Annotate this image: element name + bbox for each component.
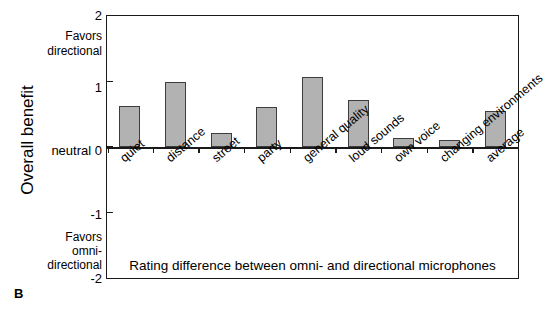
x-tick-mark	[198, 147, 199, 153]
y-annotation-favors-bottom-line2: omni-	[30, 245, 102, 258]
x-tick-mark	[108, 147, 109, 153]
y-annotation-favors-top-line2: directional	[30, 45, 102, 58]
x-tick-mark	[335, 147, 336, 153]
y-tick-mark	[107, 146, 113, 148]
x-axis-caption: Rating difference between omni- and dire…	[107, 258, 518, 273]
x-tick-mark	[381, 147, 382, 153]
y-axis-tick-column: 2 Favors directional 1 neutral 0 -1 Favo…	[30, 0, 102, 318]
x-tick-mark	[472, 147, 473, 153]
y-tick-label-0: neutral 0	[30, 144, 102, 157]
y-annotation-favors-top-line1: Favors	[30, 30, 102, 43]
x-tick-mark	[290, 147, 291, 153]
x-tick-mark	[244, 147, 245, 153]
x-tick-mark	[518, 147, 519, 153]
panel-letter: B	[14, 286, 23, 301]
x-tick-mark	[153, 147, 154, 153]
y-tick-label-1: 1	[30, 81, 102, 94]
x-tick-mark	[427, 147, 428, 153]
y-tick-label-neg2: -2	[30, 272, 102, 285]
y-tick-mark	[107, 81, 113, 83]
y-tick-label-neg1: -1	[30, 208, 102, 221]
y-tick-zero-number: 0	[95, 143, 102, 158]
plot-area: quietdistancestreetpartygeneral qualityl…	[106, 15, 519, 279]
y-tick-label-2: 2	[30, 9, 102, 22]
y-tick-mark	[107, 212, 113, 214]
y-annotation-favors-bottom-line1: Favors	[30, 231, 102, 244]
y-tick-neutral-word: neutral	[51, 143, 91, 158]
